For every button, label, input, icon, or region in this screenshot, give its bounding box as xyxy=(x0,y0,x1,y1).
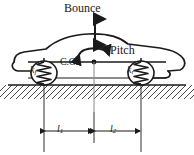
center-of-gravity-label: C.G. xyxy=(60,57,78,67)
dimension-l1-label: l1 xyxy=(57,124,63,135)
dimension-l2-subscript: 2 xyxy=(113,127,117,135)
ground-hatching xyxy=(0,85,194,99)
pitch-label: Pitch xyxy=(110,44,135,56)
suspension-diagram: Bounce Pitch C.G. kf kr l1 l2 xyxy=(0,0,194,155)
dimension-extension-lines xyxy=(44,86,141,152)
dimension-l1-subscript: 1 xyxy=(60,127,64,135)
pitch-arrow xyxy=(79,48,109,55)
front-spring-subscript: f xyxy=(34,68,36,76)
front-spring-label: kf xyxy=(30,65,36,76)
dimension-l2-label: l2 xyxy=(110,124,116,135)
ground xyxy=(0,85,194,99)
rear-spring-subscript: r xyxy=(131,68,134,76)
rear-spring-label: kr xyxy=(127,65,134,76)
diagram-canvas xyxy=(0,0,194,155)
bounce-label: Bounce xyxy=(64,2,101,14)
